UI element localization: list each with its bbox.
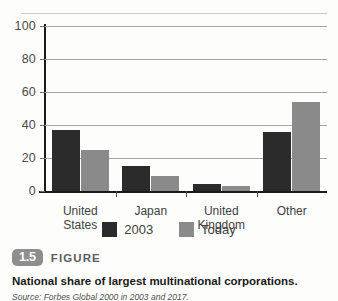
- y-axis-tick-label: 100: [15, 19, 36, 33]
- gridline: [45, 92, 327, 93]
- y-axis-tick-mark: [40, 26, 45, 27]
- x-axis-category-label: Other: [277, 205, 307, 219]
- bar-today-japan: [151, 176, 179, 191]
- y-axis-tick-mark: [40, 191, 45, 192]
- top-divider-rule: [21, 13, 327, 14]
- legend-item-2003: 2003: [102, 222, 153, 237]
- y-axis-tick-label: 80: [22, 52, 36, 66]
- bar-today-other: [292, 102, 320, 191]
- legend-swatch-today: [179, 222, 194, 237]
- gridline: [45, 59, 327, 60]
- y-axis-tick-label: 0: [29, 184, 36, 198]
- legend-swatch-2003: [102, 222, 117, 237]
- bar-today-united-states: [81, 150, 109, 191]
- plot-area: 020406080100UnitedStatesJapanUnitedKingd…: [45, 26, 327, 191]
- x-axis-line: [39, 191, 327, 193]
- y-axis-tick-label: 40: [22, 118, 36, 132]
- y-axis-line: [44, 24, 46, 193]
- legend-label-2003: 2003: [124, 222, 153, 237]
- figure-caption-text: National share of largest multinational …: [12, 274, 330, 288]
- y-axis-tick-mark: [40, 158, 45, 159]
- figure-caption-block: 1.5 FIGURE National share of largest mul…: [12, 248, 330, 301]
- figure-container: 020406080100UnitedStatesJapanUnitedKingd…: [0, 0, 338, 301]
- x-axis-tick-mark: [116, 191, 117, 197]
- figure-source-text: Source: Forbes Global 2000 in 2003 and 2…: [12, 292, 330, 301]
- figure-number-badge: 1.5: [12, 249, 43, 266]
- figure-word-label: FIGURE: [51, 252, 101, 264]
- x-axis-tick-mark: [186, 191, 187, 197]
- y-axis-tick-mark: [40, 125, 45, 126]
- bar-today-united-kingdom: [222, 186, 250, 191]
- legend-label-today: Today: [201, 222, 236, 237]
- x-axis-category-label: Japan: [134, 205, 167, 219]
- y-axis-tick-mark: [40, 59, 45, 60]
- bar-2003-other: [263, 132, 291, 191]
- y-axis-tick-mark: [40, 92, 45, 93]
- gridline: [45, 125, 327, 126]
- y-axis-tick-label: 60: [22, 85, 36, 99]
- y-axis-tick-label: 20: [22, 151, 36, 165]
- bar-2003-united-kingdom: [193, 184, 221, 191]
- figure-heading: 1.5 FIGURE: [12, 248, 330, 267]
- bar-chart: 020406080100UnitedStatesJapanUnitedKingd…: [0, 18, 338, 218]
- bar-2003-united-states: [52, 130, 80, 191]
- legend-item-today: Today: [179, 222, 236, 237]
- x-axis-tick-mark: [257, 191, 258, 197]
- chart-legend: 2003 Today: [0, 222, 338, 237]
- bar-2003-japan: [122, 166, 150, 191]
- gridline: [45, 26, 327, 27]
